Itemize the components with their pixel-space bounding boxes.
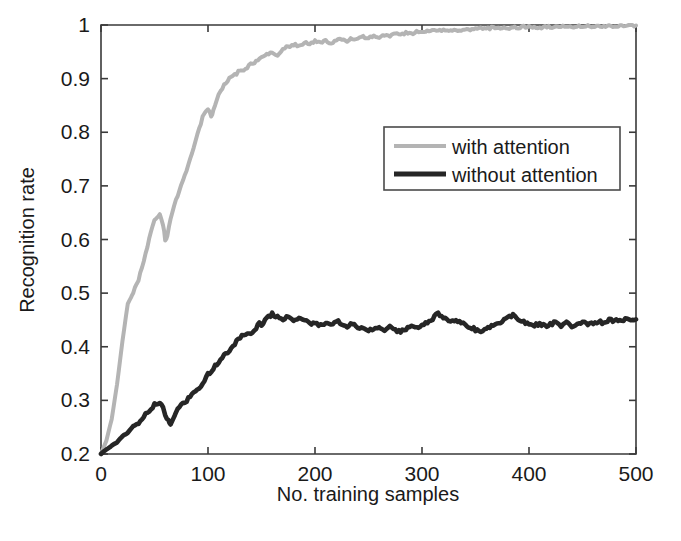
- legend-label-without-attention: without attention: [451, 164, 598, 186]
- y-tick-label: 0.3: [61, 388, 90, 411]
- series-line-with-attention: [101, 25, 636, 454]
- x-axis-ticks: [101, 25, 636, 454]
- x-tick-label: 0: [95, 462, 107, 485]
- y-tick-label: 0.2: [61, 442, 90, 465]
- y-axis-ticks: [101, 25, 636, 454]
- y-tick-label: 0.4: [61, 335, 91, 358]
- y-tick-label: 0.6: [61, 228, 90, 251]
- x-tick-label: 300: [404, 462, 439, 485]
- y-tick-label: 0.7: [61, 174, 90, 197]
- x-axis-tick-labels: 0100200300400500: [95, 462, 653, 485]
- legend-label-with-attention: with attention: [451, 136, 570, 158]
- x-tick-label: 100: [190, 462, 225, 485]
- series-line-without-attention: [101, 313, 636, 454]
- x-axis-title: No. training samples: [277, 483, 459, 505]
- y-tick-label: 1: [78, 13, 90, 36]
- x-tick-label: 400: [511, 462, 546, 485]
- plot-frame: [101, 25, 636, 454]
- y-tick-label: 0.9: [61, 67, 90, 90]
- y-tick-label: 0.8: [61, 120, 90, 143]
- x-tick-label: 200: [297, 462, 332, 485]
- y-tick-label: 0.5: [61, 281, 90, 304]
- data-series-group: [101, 25, 636, 454]
- chart-canvas: 0100200300400500 0.20.30.40.50.60.70.80.…: [0, 0, 681, 541]
- chart-figure: 0100200300400500 0.20.30.40.50.60.70.80.…: [0, 0, 681, 541]
- chart-legend: with attentionwithout attention: [384, 127, 620, 190]
- x-tick-label: 500: [618, 462, 653, 485]
- y-axis-title: Recognition rate: [16, 167, 38, 313]
- y-axis-tick-labels: 0.20.30.40.50.60.70.80.91: [61, 13, 91, 465]
